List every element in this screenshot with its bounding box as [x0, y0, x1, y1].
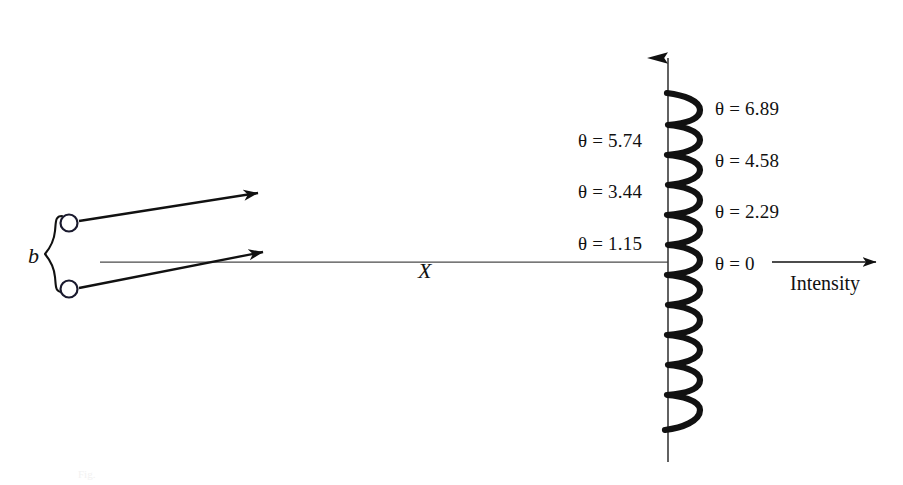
- diagram-vector-layer: [0, 0, 903, 485]
- theta-label-1-15: θ = 1.15: [578, 233, 642, 255]
- theta-label-6-89: θ = 6.89: [715, 98, 779, 120]
- theta-label-2-29: θ = 2.29: [715, 201, 779, 223]
- theta-label-4-58: θ = 4.58: [715, 150, 779, 172]
- theta-label-0: θ = 0: [715, 253, 755, 275]
- upper-ray-arrow: [79, 193, 258, 221]
- slit-separation-brace: [45, 216, 62, 292]
- figure-caption-cut-off: Fig.: [78, 468, 95, 480]
- interference-intensity-curve: [665, 93, 700, 430]
- theta-label-3-44: θ = 3.44: [578, 181, 642, 203]
- distance-label-x: X: [418, 258, 431, 284]
- lower-slit-circle-icon: [61, 281, 78, 298]
- lower-ray-arrow: [79, 252, 263, 288]
- slit-separation-label-b: b: [28, 243, 39, 269]
- interference-diagram-figure: θ = 5.74 θ = 3.44 θ = 1.15 θ = 6.89 θ = …: [0, 0, 903, 485]
- theta-label-5-74: θ = 5.74: [578, 130, 642, 152]
- intensity-axis-label: Intensity: [790, 272, 860, 295]
- slit-sources-group: [61, 215, 78, 298]
- upper-slit-circle-icon: [61, 215, 78, 232]
